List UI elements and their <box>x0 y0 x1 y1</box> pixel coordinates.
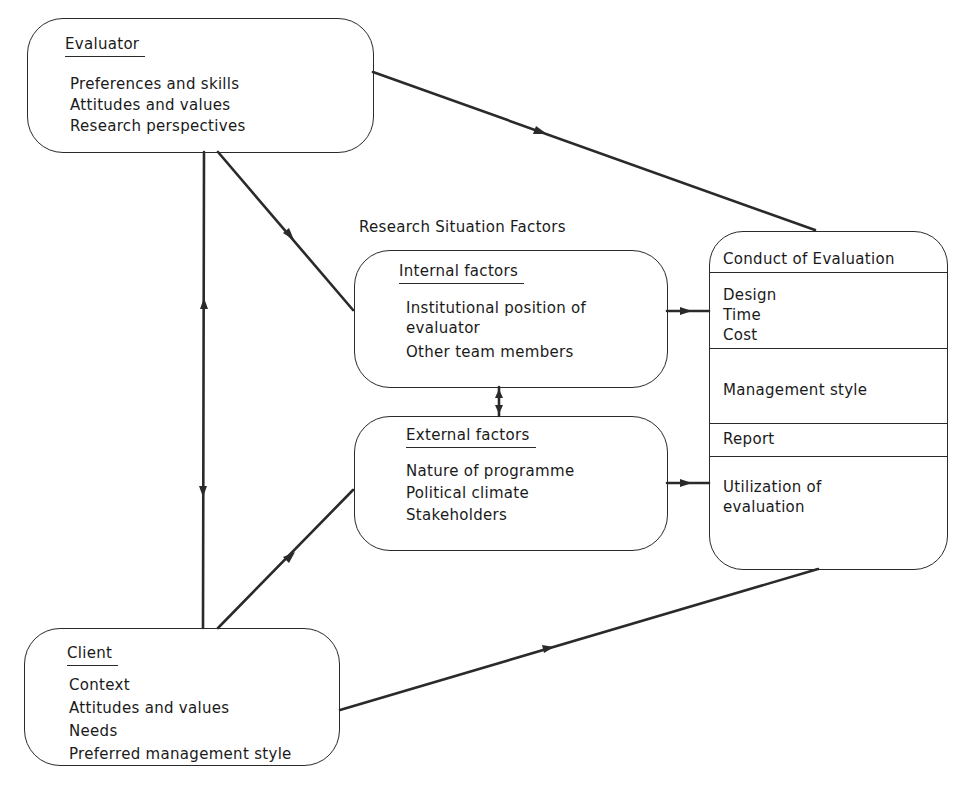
external-factors-title: External factors <box>406 426 536 448</box>
arrowhead-icon <box>200 298 208 309</box>
arrowhead-icon <box>495 389 503 398</box>
conduct-title: Conduct of Evaluation <box>723 249 895 269</box>
external-factors-item: Stakeholders <box>406 504 574 526</box>
evaluator-items: Preferences and skills Attitudes and val… <box>70 74 246 137</box>
divider <box>710 272 947 273</box>
divider <box>710 423 947 424</box>
arrowhead-icon <box>199 486 207 497</box>
conduct-section-management: Management style <box>723 380 867 400</box>
conduct-section-report: Report <box>723 429 775 449</box>
line-client-to-conduct <box>340 569 818 710</box>
conduct-item: Time <box>723 305 777 325</box>
client-items: Context Attitudes and values Needs Prefe… <box>69 674 292 766</box>
line-evaluator-client <box>203 152 204 628</box>
conduct-section-design: Design Time Cost <box>723 285 777 345</box>
client-item: Context <box>69 674 292 697</box>
conduct-item: Design <box>723 285 777 305</box>
internal-factors-items: Institutional position of evaluator Othe… <box>406 298 586 362</box>
evaluation-model-diagram: Evaluator Preferences and skills Attitud… <box>0 0 965 787</box>
client-box: Client Context Attitudes and values Need… <box>24 628 340 766</box>
conduct-item: Management style <box>723 380 867 400</box>
conduct-item: Utilization of <box>723 477 822 497</box>
arrowhead-icon <box>680 479 692 487</box>
arrowhead-icon <box>495 405 503 414</box>
evaluator-box: Evaluator Preferences and skills Attitud… <box>27 18 374 153</box>
arrowhead-icon <box>680 307 692 315</box>
external-factors-item: Nature of programme <box>406 460 574 482</box>
evaluator-item: Research perspectives <box>70 116 246 137</box>
evaluator-item: Preferences and skills <box>70 74 246 95</box>
arrowhead-icon <box>533 126 547 134</box>
internal-factors-item: Institutional position of <box>406 298 586 318</box>
internal-factors-item: evaluator <box>406 318 586 338</box>
external-factors-items: Nature of programme Political climate St… <box>406 460 574 526</box>
conduct-of-evaluation-box: Conduct of Evaluation Design Time Cost M… <box>709 231 948 570</box>
conduct-item: Report <box>723 429 775 449</box>
internal-factors-box: Internal factors Institutional position … <box>354 250 668 388</box>
external-factors-item: Political climate <box>406 482 574 504</box>
divider <box>710 348 947 349</box>
client-item: Preferred management style <box>69 743 292 766</box>
client-title: Client <box>67 644 118 666</box>
conduct-section-utilization: Utilization of evaluation <box>723 477 822 517</box>
client-item: Attitudes and values <box>69 697 292 720</box>
evaluator-item: Attitudes and values <box>70 95 246 116</box>
conduct-item: evaluation <box>723 497 822 517</box>
internal-factors-title: Internal factors <box>399 262 524 284</box>
evaluator-title: Evaluator <box>65 35 145 57</box>
divider <box>710 456 947 457</box>
internal-factors-item: Other team members <box>406 342 586 362</box>
research-situation-caption: Research Situation Factors <box>359 218 566 236</box>
conduct-item: Cost <box>723 325 777 345</box>
client-item: Needs <box>69 720 292 743</box>
external-factors-box: External factors Nature of programme Pol… <box>354 416 668 551</box>
line-evaluator-to-conduct <box>373 72 815 230</box>
